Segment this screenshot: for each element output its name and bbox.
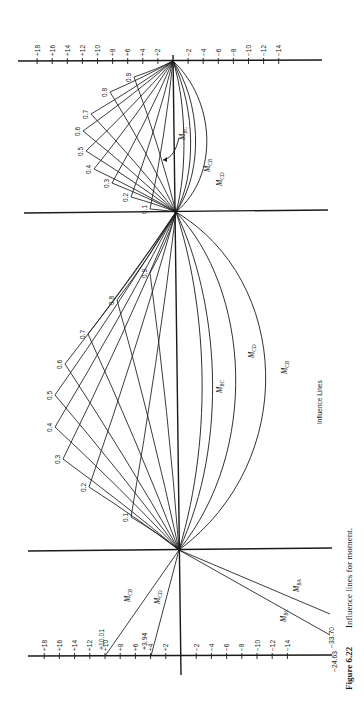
figure-caption: Figure 6.22 Influence lines for moment. xyxy=(344,528,354,690)
axis-tick-label: +18 xyxy=(41,640,48,651)
axis-tick-label: +2 xyxy=(154,48,161,56)
axis-tick-label: −4 xyxy=(200,48,207,56)
end-value-label: −24.63 xyxy=(331,651,338,672)
cantilever-influence-line xyxy=(179,550,330,635)
curve-label-m-cd: MCD xyxy=(215,172,225,187)
axis-tick-label: −4 xyxy=(208,643,215,651)
top-ordinate-axis: +18+16+14+12+10+8+6+4+2−2−4−6−8−10−12−14 xyxy=(18,45,322,64)
section-fraction-label: 0.6 xyxy=(74,127,81,136)
axis-tick-label: −8 xyxy=(230,48,237,56)
axis-tick-label: +16 xyxy=(49,45,56,56)
curve-label-m-bc: MBC xyxy=(215,380,225,394)
section-fraction-label: 0.5 xyxy=(46,391,53,400)
section-fraction-label: 0.3 xyxy=(103,179,110,188)
end-value-label: +10.01 xyxy=(98,629,105,650)
influence-lines-figure: +18+16+14+12+10+8+6+4+2−2−4−6−8−10−12−14… xyxy=(0,0,364,704)
bottom-span-influence-lines: MCB+10.01MCD+3.94MBC−24.63MBA−33.70 xyxy=(98,550,338,672)
curve-label-m-cd: MCD xyxy=(247,344,257,359)
curve-label-m-cd: MCD xyxy=(153,590,163,605)
axis-tick-label: +8 xyxy=(109,48,116,56)
axis-tick-label: −8 xyxy=(238,643,245,651)
axis-tick-label: +16 xyxy=(56,640,63,651)
axis-tick-label: +8 xyxy=(117,643,124,651)
section-fraction-label: 0.3 xyxy=(54,455,61,464)
axis-tick-label: −14 xyxy=(275,45,282,56)
curve-label-m-cb: MCB xyxy=(280,360,290,375)
axis-tick-label: +6 xyxy=(124,48,131,56)
section-influence-line xyxy=(131,61,176,212)
axis-tick-label: +10 xyxy=(94,45,101,56)
axis-tick-label: −12 xyxy=(269,640,276,651)
section-fraction-label: 0.2 xyxy=(80,483,87,492)
axis-tick-label: −6 xyxy=(223,643,230,651)
section-fraction-label: 0.8 xyxy=(101,88,108,97)
axis-tick-label: +4 xyxy=(139,48,146,56)
moment-curve xyxy=(176,212,236,550)
axis-tick-label: +12 xyxy=(79,45,86,56)
curve-label-m-cb: MCB xyxy=(203,158,213,173)
curve-label-m-cb: MCB xyxy=(123,588,133,603)
axis-tick-label: −2 xyxy=(185,48,192,56)
axis-tick-label: +14 xyxy=(64,45,71,56)
axis-tick-label: +12 xyxy=(86,640,93,651)
curve-label-m-ba: MBA xyxy=(292,579,302,593)
section-fraction-label: 0.9 xyxy=(141,269,148,278)
influence-lines-label: Influence Lines xyxy=(316,380,323,424)
axis-tick-label: +2 xyxy=(162,643,169,651)
pointer-arrow xyxy=(163,138,179,160)
section-fraction-label: 0.7 xyxy=(82,110,89,119)
curve-label-m-bc: MBC xyxy=(279,609,289,623)
top-span-influence-lines: 0.10.20.30.40.50.60.70.80.9MBCMCBMCD xyxy=(74,61,225,214)
section-fraction-label: 0.6 xyxy=(56,360,63,369)
caption-text: Influence lines for moment. xyxy=(344,528,354,628)
section-influence-line xyxy=(88,212,179,550)
curve-label-m-bc: MBC xyxy=(178,127,188,141)
end-value-label: +3.94 xyxy=(141,633,148,650)
moment-curve xyxy=(176,212,213,550)
section-fraction-label: 0.4 xyxy=(85,165,92,174)
section-fraction-label: 0.1 xyxy=(122,513,129,522)
axis-tick-label: −2 xyxy=(193,643,200,651)
section-influence-line xyxy=(94,61,176,212)
axis-tick-label: +6 xyxy=(132,643,139,651)
middle-span-influence-lines: 0.10.20.30.40.50.60.70.80.9MBCMCDMCB xyxy=(46,212,290,550)
section-fraction-label: 0.9 xyxy=(125,73,132,82)
axis-tick-label: +18 xyxy=(34,45,41,56)
cantilever-influence-line xyxy=(179,550,330,614)
axis-tick-label: +14 xyxy=(71,640,78,651)
axis-tick-label: −14 xyxy=(284,640,291,651)
axis-tick-label: −10 xyxy=(254,640,261,651)
section-fraction-label: 0.4 xyxy=(46,423,53,432)
axis-tick-label: −6 xyxy=(215,48,222,56)
section-fraction-label: 0.2 xyxy=(122,193,129,202)
section-fraction-label: 0.5 xyxy=(77,147,84,156)
axis-tick-label: −10 xyxy=(245,45,252,56)
axis-tick-label: −12 xyxy=(260,45,267,56)
end-value-label: −33.70 xyxy=(328,627,335,648)
baseline-axis xyxy=(173,55,181,675)
section-fraction-label: 0.8 xyxy=(108,296,115,305)
section-influence-line xyxy=(131,212,179,550)
caption-figure-number: Figure 6.22 xyxy=(344,646,354,690)
section-fraction-label: 0.7 xyxy=(79,330,86,339)
section-fraction-label: 0.1 xyxy=(141,205,148,214)
